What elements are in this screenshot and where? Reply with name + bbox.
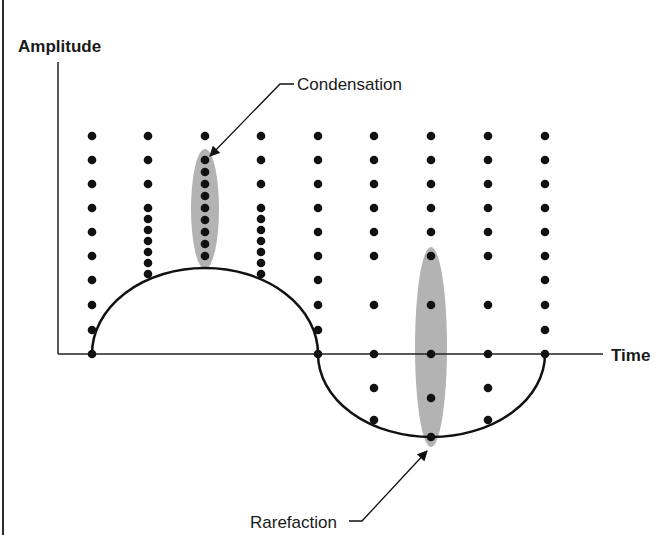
particle-dot bbox=[144, 132, 153, 141]
rarefaction-region bbox=[415, 247, 447, 447]
particle-dot bbox=[201, 216, 210, 225]
particle-dot bbox=[541, 350, 550, 359]
particle-dot bbox=[541, 132, 550, 141]
particle-dot bbox=[370, 228, 379, 237]
particle-dot bbox=[144, 226, 153, 235]
particle-dot bbox=[314, 276, 323, 285]
particle-dot bbox=[201, 228, 210, 237]
particle-dot bbox=[427, 394, 436, 403]
particle-dot bbox=[144, 180, 153, 189]
y-axis-label: Amplitude bbox=[18, 37, 101, 56]
particle-dot bbox=[314, 301, 323, 310]
particle-dot bbox=[484, 252, 493, 261]
particle-dot bbox=[201, 204, 210, 213]
particle-dot bbox=[88, 252, 97, 261]
particle-dot bbox=[484, 132, 493, 141]
condensation-label: Condensation bbox=[297, 75, 402, 94]
particle-dot bbox=[257, 270, 266, 279]
particle-dot bbox=[88, 350, 97, 359]
particle-dot bbox=[88, 204, 97, 213]
particle-dot bbox=[257, 215, 266, 224]
particle-dot bbox=[314, 132, 323, 141]
particle-dot bbox=[88, 180, 97, 189]
particle-dot bbox=[314, 326, 323, 335]
particle-dot bbox=[144, 259, 153, 268]
particle-dot bbox=[484, 204, 493, 213]
particle-dot bbox=[257, 237, 266, 246]
particle-dot bbox=[257, 248, 266, 257]
particle-dot bbox=[144, 204, 153, 213]
particle-dot bbox=[314, 252, 323, 261]
particle-dot bbox=[427, 204, 436, 213]
particle-dot bbox=[427, 350, 436, 359]
particle-dot bbox=[88, 132, 97, 141]
particle-dot bbox=[541, 228, 550, 237]
particle-dot bbox=[427, 228, 436, 237]
particle-dot bbox=[314, 350, 323, 359]
particle-dot bbox=[541, 156, 550, 165]
particle-dot bbox=[541, 252, 550, 261]
particle-dot bbox=[201, 168, 210, 177]
particle-dot bbox=[370, 301, 379, 310]
particle-dot bbox=[427, 156, 436, 165]
particle-dot bbox=[314, 156, 323, 165]
particle-dot bbox=[257, 132, 266, 141]
particle-dot bbox=[201, 180, 210, 189]
sound-wave-diagram: Amplitude Time Condensation Rarefaction bbox=[0, 0, 668, 535]
particle-dot bbox=[201, 192, 210, 201]
x-axis-label: Time bbox=[611, 346, 650, 365]
particle-dot bbox=[541, 301, 550, 310]
particle-dot bbox=[144, 237, 153, 246]
particle-dot bbox=[201, 156, 210, 165]
particle-dot bbox=[427, 132, 436, 141]
particle-dot bbox=[370, 252, 379, 261]
particle-dot bbox=[257, 156, 266, 165]
particle-dot bbox=[484, 350, 493, 359]
particle-dot bbox=[314, 228, 323, 237]
particle-dot bbox=[484, 228, 493, 237]
particle-dot bbox=[370, 204, 379, 213]
particle-dot bbox=[484, 180, 493, 189]
particle-dot bbox=[427, 252, 436, 261]
particle-dot bbox=[201, 240, 210, 249]
particle-dot bbox=[88, 301, 97, 310]
highlight-regions bbox=[191, 149, 447, 447]
particle-dot bbox=[370, 384, 379, 393]
particle-dot bbox=[541, 180, 550, 189]
particle-dot bbox=[370, 416, 379, 425]
particle-dot bbox=[257, 180, 266, 189]
particle-dot bbox=[541, 276, 550, 285]
particle-dot bbox=[201, 252, 210, 261]
particle-dot bbox=[314, 180, 323, 189]
particle-dot bbox=[427, 433, 436, 442]
particle-dot bbox=[257, 259, 266, 268]
particle-dot bbox=[370, 350, 379, 359]
particle-dot bbox=[427, 301, 436, 310]
particle-dots bbox=[88, 132, 550, 442]
condensation-arrow bbox=[210, 84, 294, 156]
particle-dot bbox=[88, 326, 97, 335]
particle-dot bbox=[144, 215, 153, 224]
particle-dot bbox=[257, 226, 266, 235]
particle-dot bbox=[144, 248, 153, 257]
particle-dot bbox=[144, 156, 153, 165]
particle-dot bbox=[370, 180, 379, 189]
particle-dot bbox=[88, 156, 97, 165]
particle-dot bbox=[257, 204, 266, 213]
particle-dot bbox=[541, 204, 550, 213]
rarefaction-arrow bbox=[349, 451, 427, 521]
particle-dot bbox=[541, 326, 550, 335]
particle-dot bbox=[144, 270, 153, 279]
particle-dot bbox=[88, 276, 97, 285]
particle-dot bbox=[201, 132, 210, 141]
particle-dot bbox=[484, 416, 493, 425]
particle-dot bbox=[88, 228, 97, 237]
particle-dot bbox=[484, 156, 493, 165]
particle-dot bbox=[370, 132, 379, 141]
particle-dot bbox=[484, 301, 493, 310]
particle-dot bbox=[370, 156, 379, 165]
particle-dot bbox=[314, 204, 323, 213]
rarefaction-label: Rarefaction bbox=[250, 513, 337, 532]
particle-dot bbox=[484, 384, 493, 393]
particle-dot bbox=[427, 180, 436, 189]
